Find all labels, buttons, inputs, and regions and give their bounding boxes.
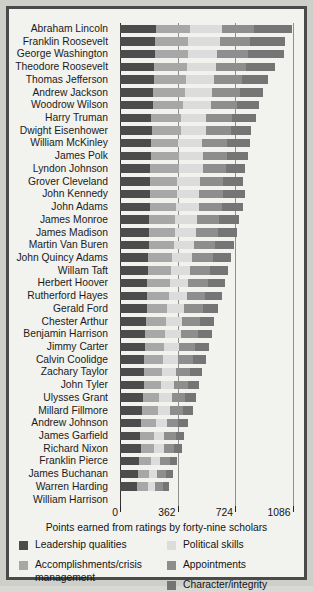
bar-segment	[120, 304, 147, 313]
legend-item[interactable]: Character/integrity	[167, 579, 267, 592]
bar-segment	[198, 330, 212, 339]
bar-segment	[215, 241, 233, 250]
category-label: Woodrow Wilson	[31, 98, 108, 111]
bar-segment	[120, 50, 155, 59]
bar-segment	[155, 37, 188, 46]
bar-segment	[237, 101, 259, 110]
bar-segment	[120, 368, 144, 377]
legend-item[interactable]: Accomplishments/crisis management	[19, 559, 165, 584]
bar-segment	[218, 228, 237, 237]
bar-segment	[175, 215, 197, 224]
stacked-bar	[120, 317, 214, 326]
stacked-bar	[120, 63, 275, 72]
chart-row: Franklin Roosevelt	[9, 35, 304, 48]
bar-segment	[170, 406, 183, 415]
stacked-bar	[120, 177, 243, 186]
bar-segment	[177, 177, 199, 186]
category-label: John Quincy Adams	[16, 251, 108, 264]
bar-segment	[147, 304, 168, 313]
x-tick-label: 1086	[263, 507, 291, 519]
bar-segment	[223, 177, 243, 186]
category-label: William Harrison	[33, 493, 108, 506]
bar-segment	[250, 37, 284, 46]
x-axis: 03627241086	[9, 506, 304, 522]
bar-segment	[242, 75, 268, 84]
bar-segment	[149, 215, 175, 224]
bar-segment	[120, 279, 147, 288]
category-label: James Garfield	[39, 429, 108, 442]
bar-segment	[195, 343, 208, 352]
legend-item[interactable]: Political skills	[167, 539, 244, 552]
bar-segment	[248, 50, 285, 59]
chart-row: James Buchanan	[9, 467, 304, 480]
bar-segment	[164, 444, 174, 453]
bar-segment	[187, 63, 216, 72]
bar-segment	[148, 266, 171, 275]
bar-segment	[154, 432, 164, 441]
bar-segment	[199, 203, 223, 212]
bar-segment	[178, 355, 193, 364]
bar-segment	[144, 381, 161, 390]
bar-segment	[138, 470, 149, 479]
bar-segment	[202, 139, 227, 148]
bar-segment	[120, 25, 156, 34]
stacked-bar	[120, 50, 284, 59]
x-tick-mark	[120, 506, 121, 512]
legend-label: Political skills	[183, 539, 244, 552]
bar-segment	[120, 139, 151, 148]
chart-row: George Washington	[9, 47, 304, 60]
bar-segment	[157, 470, 166, 479]
bar-segment	[166, 470, 173, 479]
bar-segment	[214, 75, 242, 84]
bar-segment	[151, 457, 160, 466]
bar-segment	[206, 114, 232, 123]
bar-segment	[193, 355, 206, 364]
stacked-bar	[120, 190, 245, 199]
stacked-bar	[120, 88, 263, 97]
bar-segment	[120, 101, 153, 110]
chart-plot-area: Abraham LincolnFranklin RooseveltGeorge …	[9, 9, 304, 577]
bar-segment	[154, 75, 186, 84]
stacked-bar	[120, 126, 251, 135]
legend-swatch-icon	[19, 541, 28, 550]
bar-segment	[190, 25, 223, 34]
x-axis-title: Points earned from ratings by forty-nine…	[9, 522, 304, 533]
category-label: James Buchanan	[28, 467, 108, 480]
category-label: Grover Cleveland	[28, 175, 108, 188]
chart-row: Ulysses Grant	[9, 391, 304, 404]
category-label: Richard Nixon	[43, 442, 108, 455]
bar-segment	[120, 114, 151, 123]
bar-segment	[120, 177, 150, 186]
legend-item[interactable]: Appointments	[167, 559, 246, 572]
chart-row: Gerald Ford	[9, 302, 304, 315]
legend-label: Leadership qualities	[35, 539, 127, 552]
bar-segment	[192, 253, 213, 262]
bar-segment	[246, 63, 275, 72]
bar-segment	[120, 457, 139, 466]
bar-segment	[185, 393, 196, 402]
chart-row: Dwight Eisenhower	[9, 124, 304, 137]
bar-segment	[120, 432, 140, 441]
bar-segment	[120, 203, 150, 212]
bar-segment	[164, 432, 175, 441]
bar-segment	[140, 432, 154, 441]
category-label: Benjamin Harrison	[23, 327, 108, 340]
bar-segment	[162, 368, 176, 377]
bar-segment	[156, 419, 167, 428]
stacked-bar	[120, 37, 285, 46]
chart-row: John Tyler	[9, 378, 304, 391]
chart-row: James Monroe	[9, 213, 304, 226]
stacked-bar	[120, 419, 188, 428]
stacked-bar	[120, 75, 268, 84]
bar-segment	[183, 101, 211, 110]
bar-segment	[142, 406, 158, 415]
x-tick-label: 0	[90, 507, 118, 519]
category-label: John Kennedy	[42, 187, 108, 200]
bar-segment	[161, 381, 174, 390]
bar-segment	[179, 343, 195, 352]
legend-item[interactable]: Leadership qualities	[19, 539, 127, 552]
bar-segment	[174, 241, 194, 250]
legend-swatch-icon	[167, 581, 176, 590]
bar-segment	[120, 419, 141, 428]
